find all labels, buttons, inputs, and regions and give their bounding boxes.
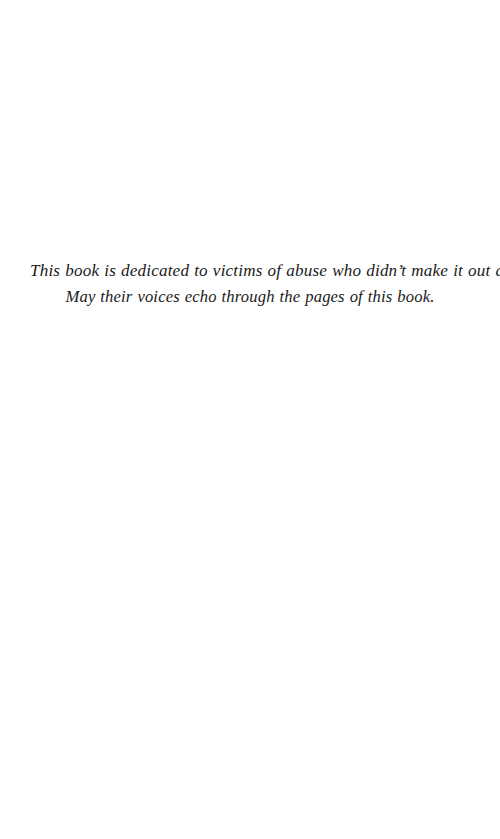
book-page: This book is dedicated to victims of abu… [0,0,500,839]
dedication-line-1: This book is dedicated to victims of abu… [30,258,470,284]
dedication-text-block: This book is dedicated to victims of abu… [0,258,500,310]
paper-grain-texture [0,0,500,839]
dedication-line-2: May their voices echo through the pages … [30,284,470,310]
